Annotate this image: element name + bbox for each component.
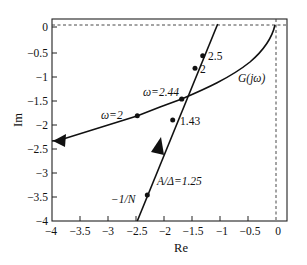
y-axis-ticks (52, 27, 57, 197)
marker-1-43 (170, 118, 175, 123)
x-tick-label: −2.5 (127, 225, 148, 237)
y-tick-label: −0.5 (27, 47, 48, 59)
x-tick-label: −1 (216, 225, 228, 237)
marker-omega-2-44 (179, 96, 184, 101)
annotation-2-5: 2.5 (208, 50, 223, 62)
annotation-g-jw: G(jω) (238, 72, 265, 85)
marker-2 (193, 66, 198, 71)
y-tick-label: −2 (36, 119, 48, 131)
y-tick-labels: 0 −0.5 −1 −1.5 −2 −2.5 −3 −3.5 −4 (27, 21, 48, 227)
x-tick-label: 0 (275, 225, 281, 237)
x-axis-ticks (80, 216, 248, 221)
annotation-minus-one-over-n: −1/N (111, 193, 137, 205)
annotation-a-delta-1-25: A/Δ=1.25 (156, 175, 202, 187)
minus-one-over-n-line (137, 24, 217, 221)
x-tick-label: −3 (102, 225, 114, 237)
plot-frame (52, 19, 287, 221)
x-tick-label: −4 (45, 225, 57, 237)
annotation-omega-2-44: ω=2.44 (143, 86, 179, 98)
y-axis-label: Im (11, 113, 25, 127)
y-tick-label: −3.5 (27, 191, 48, 203)
marker-omega-2 (135, 113, 140, 118)
y-tick-label: −1.5 (27, 95, 48, 107)
x-tick-label: −1.5 (183, 225, 204, 237)
annotation-omega-2: ω=2 (101, 109, 123, 121)
n-line-direction-arrow (151, 137, 164, 155)
y-tick-label: −1 (36, 71, 48, 83)
x-tick-label: −0.5 (240, 225, 261, 237)
x-tick-labels: −4 −3.5 −3 −2.5 −2 −1.5 −1 −0.5 0 (45, 225, 281, 237)
annotation-1-43: 1.43 (180, 115, 200, 127)
nyquist-chart: 0 −0.5 −1 −1.5 −2 −2.5 −3 −3.5 −4 −4 −3.… (0, 0, 307, 265)
x-tick-label: −3.5 (70, 225, 91, 237)
x-axis-label: Re (174, 241, 188, 255)
marker-1-25 (145, 193, 150, 198)
y-tick-label: −2.5 (27, 143, 48, 155)
annotation-2: 2 (200, 63, 206, 75)
y-tick-label: −3 (36, 167, 48, 179)
x-tick-label: −2 (159, 225, 171, 237)
y-tick-label: 0 (42, 21, 48, 33)
g-curve-direction-arrow (53, 134, 66, 147)
marker-2-5 (200, 53, 205, 58)
